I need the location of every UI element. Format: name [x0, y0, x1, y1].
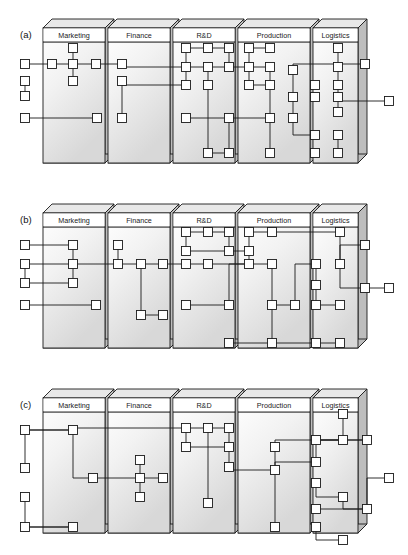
network-node: [69, 523, 78, 532]
network-node: [339, 436, 348, 445]
panel-caption: (b): [20, 214, 32, 225]
network-node: [225, 301, 234, 310]
network-node: [268, 260, 277, 269]
network-node: [118, 114, 127, 123]
network-node: [289, 66, 298, 75]
network-node: [137, 260, 146, 269]
network-node: [336, 228, 345, 237]
compartment-production: [238, 389, 319, 533]
network-node: [225, 63, 234, 72]
network-node: [204, 149, 213, 158]
network-node: [334, 81, 343, 90]
compartment-label: Finance: [126, 31, 152, 40]
network-node: [266, 114, 275, 123]
network-node: [225, 44, 234, 53]
network-node: [225, 149, 234, 158]
network-node: [136, 493, 145, 502]
network-node: [266, 44, 275, 53]
network-node: [289, 114, 298, 123]
panel-a-canvas: MarketingFinanceR&DProductionLogistics(a…: [0, 0, 408, 185]
network-node: [311, 149, 320, 158]
slab-top-face: [43, 19, 114, 28]
network-node: [312, 523, 321, 532]
network-node: [334, 93, 343, 102]
network-node: [312, 260, 321, 269]
network-node: [204, 44, 213, 53]
network-node: [311, 81, 320, 90]
compartment-finance: [108, 19, 179, 163]
compartment-slabs: [43, 19, 367, 163]
slab-top-face: [238, 19, 319, 28]
network-node: [21, 114, 30, 123]
network-node: [21, 260, 30, 269]
network-node: [268, 339, 277, 348]
slab-front-face: [43, 398, 105, 533]
network-node: [204, 63, 213, 72]
network-node: [312, 436, 321, 445]
network-node: [182, 228, 191, 237]
network-node: [245, 44, 254, 53]
network-node: [21, 60, 30, 69]
network-node: [69, 279, 78, 288]
network-node: [118, 77, 127, 86]
slab-top-face: [108, 204, 179, 213]
slab-front-face: [108, 213, 170, 348]
network-node: [69, 44, 78, 53]
slab-right-face: [358, 204, 367, 348]
network-node: [385, 474, 394, 483]
network-node: [136, 474, 145, 483]
network-node: [312, 301, 321, 310]
panel-c-canvas: MarketingFinanceR&DProductionLogistics(c…: [0, 370, 408, 555]
network-node: [311, 93, 320, 102]
network-node: [225, 424, 234, 433]
compartment-label: Logistics: [322, 401, 350, 410]
network-node: [266, 149, 275, 158]
network-node: [361, 284, 370, 293]
network-node: [225, 228, 234, 237]
compartment-label: R&D: [196, 401, 211, 410]
network-node: [271, 523, 280, 532]
network-node: [204, 228, 213, 237]
network-node: [336, 260, 345, 269]
compartment-label: Marketing: [58, 216, 90, 225]
panel-b: MarketingFinanceR&DProductionLogistics(b…: [0, 185, 408, 370]
compartment-randd: [173, 389, 244, 533]
network-node: [311, 131, 320, 140]
network-node: [21, 279, 30, 288]
network-node: [204, 499, 213, 508]
network-node: [334, 149, 343, 158]
network-node: [21, 77, 30, 86]
network-node: [92, 301, 101, 310]
slab-top-face: [173, 19, 244, 28]
network-node: [182, 81, 191, 90]
network-node: [182, 424, 191, 433]
network-node: [204, 424, 213, 433]
slab-front-face: [108, 28, 170, 163]
compartment-label: Production: [257, 216, 291, 225]
compartment-logistics: [313, 19, 367, 163]
network-node: [361, 60, 370, 69]
network-node: [69, 77, 78, 86]
network-node: [385, 97, 394, 106]
network-node: [182, 247, 191, 256]
compartment-slabs: [43, 204, 367, 348]
slab-top-face: [108, 389, 179, 398]
network-node: [159, 474, 168, 483]
network-node: [268, 301, 277, 310]
network-node: [69, 60, 78, 69]
network-node: [182, 44, 191, 53]
network-node: [312, 505, 321, 514]
network-node: [245, 247, 254, 256]
network-node: [118, 60, 127, 69]
network-node: [137, 311, 146, 320]
compartment-marketing: [43, 19, 114, 163]
slab-top-face: [108, 19, 179, 28]
network-node: [225, 339, 234, 348]
slab-top-face: [43, 389, 114, 398]
network-node: [69, 260, 78, 269]
compartment-marketing: [43, 204, 114, 348]
network-node: [268, 228, 277, 237]
compartment-production: [238, 204, 319, 348]
slab-top-face: [43, 204, 114, 213]
network-node: [21, 523, 30, 532]
